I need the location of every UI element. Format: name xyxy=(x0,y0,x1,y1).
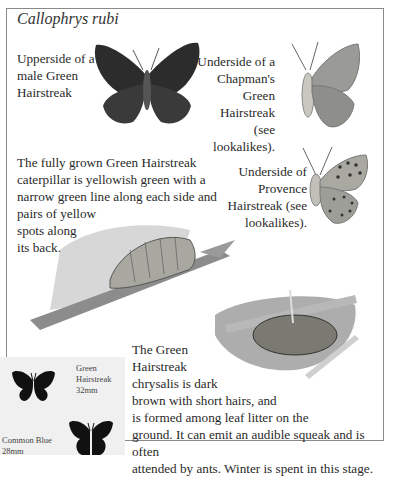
caption-line: attended by ants. Winter is spent in thi… xyxy=(132,460,394,477)
species-name: Green xyxy=(76,363,111,374)
caption-line: brown with short hairs, and xyxy=(132,392,394,409)
caption-line: chrysalis is dark xyxy=(132,375,394,392)
green-hairstreak-upperside-illustration xyxy=(93,40,203,130)
caption-line: ground. It can emit an audible squeak an… xyxy=(132,426,394,460)
caption-chapmans: Underside of a Chapman's Green Hairstrea… xyxy=(190,53,275,155)
caption-chrysalis: The Green Hairstreak chrysalis is dark b… xyxy=(132,341,394,477)
caption-line: Hairstreak xyxy=(132,358,394,375)
common-blue-silhouette-icon xyxy=(68,419,114,455)
caption-line: Provence xyxy=(225,180,307,197)
species-title: Callophrys rubi xyxy=(17,10,119,28)
species-name: Hairstreak xyxy=(76,374,111,385)
green-hairstreak-size-label: Green Hairstreak 32mm xyxy=(76,363,111,396)
caption-upperside: Upperside of a male Green Hairstreak xyxy=(17,50,95,101)
caption-line: Chapman's xyxy=(190,70,275,87)
caption-line: is formed among leaf litter on the xyxy=(132,409,394,426)
wingspan-value: 32mm xyxy=(76,385,111,396)
caption-line: Hairstreak xyxy=(17,84,95,101)
wingspan-value: 28mm xyxy=(2,446,52,457)
caption-line: The Green xyxy=(132,341,394,358)
caption-line: Underside of xyxy=(225,163,307,180)
caption-line: Underside of a xyxy=(190,53,275,70)
caption-line: caterpillar is yellowish green with a xyxy=(17,171,217,188)
caption-line: narrow green line along each side and xyxy=(17,188,217,205)
provence-hairstreak-underside-illustration xyxy=(300,145,370,227)
chapmans-hairstreak-underside-illustration xyxy=(288,40,363,130)
green-hairstreak-silhouette-icon xyxy=(11,369,56,403)
species-name: Common Blue xyxy=(2,435,52,446)
caption-line: Upperside of a xyxy=(17,50,95,67)
caption-line: male Green xyxy=(17,67,95,84)
common-blue-size-label: Common Blue 28mm xyxy=(2,435,52,457)
caption-line: Green Hairstreak xyxy=(190,87,275,121)
caption-line: (see lookalikes). xyxy=(190,121,275,155)
caption-line: The fully grown Green Hairstreak xyxy=(17,154,217,171)
